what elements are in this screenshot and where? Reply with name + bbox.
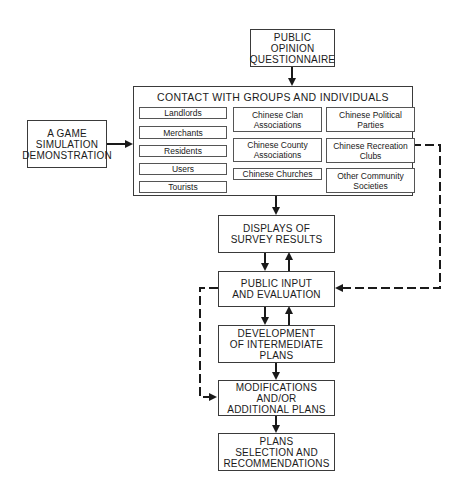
group-chinese-county-associations: Chinese County Associations <box>233 138 322 162</box>
group-label: Chinese Recreation Clubs <box>333 141 408 161</box>
plans-selection-label: PLANS SELECTION AND RECOMMENDATIONS <box>223 436 329 469</box>
development-box: DEVELOPMENT OF INTERMEDIATE PLANS <box>218 325 335 363</box>
group-landlords: Landlords <box>139 107 227 119</box>
questionnaire-box: PUBLIC OPINION QUESTIONNAIRE <box>250 29 335 67</box>
group-chinese-recreation-clubs: Chinese Recreation Clubs <box>326 138 415 163</box>
group-label: Chinese Clan Associations <box>252 110 303 130</box>
group-other-community-societies: Other Community Societies <box>326 168 415 193</box>
group-chinese-clan-associations: Chinese Clan Associations <box>233 107 322 132</box>
game-simulation-label: A GAME SIMULATION DEMONSTRATION <box>22 128 112 161</box>
group-label: Merchants <box>163 128 203 138</box>
group-users: Users <box>139 163 227 175</box>
questionnaire-label: PUBLIC OPINION QUESTIONNAIRE <box>250 32 335 65</box>
group-tourists: Tourists <box>139 181 227 193</box>
group-label: Chinese Churches <box>243 169 313 179</box>
displays-label: DISPLAYS OF SURVEY RESULTS <box>231 223 323 245</box>
group-label: Residents <box>164 146 202 156</box>
modifications-label: MODIFICATIONS AND/OR ADDITIONAL PLANS <box>227 382 325 415</box>
group-label: Landlords <box>164 108 201 118</box>
group-label: Other Community Societies <box>337 171 404 191</box>
group-merchants: Merchants <box>139 126 227 139</box>
public-input-box: PUBLIC INPUT AND EVALUATION <box>218 271 335 307</box>
public-input-label: PUBLIC INPUT AND EVALUATION <box>232 278 321 300</box>
group-residents: Residents <box>139 145 227 157</box>
displays-box: DISPLAYS OF SURVEY RESULTS <box>218 215 335 253</box>
group-chinese-political-parties: Chinese Political Parties <box>326 107 415 132</box>
group-label: Chinese County Associations <box>247 140 307 160</box>
dashed-input-to-modifications <box>200 288 218 397</box>
group-label: Users <box>172 164 194 174</box>
group-label: Chinese Political Parties <box>339 110 402 130</box>
group-chinese-churches: Chinese Churches <box>233 168 322 180</box>
game-simulation-box: A GAME SIMULATION DEMONSTRATION <box>27 120 107 168</box>
contact-title: CONTACT WITH GROUPS AND INDIVIDUALS <box>134 92 412 103</box>
modifications-box: MODIFICATIONS AND/OR ADDITIONAL PLANS <box>218 380 335 416</box>
development-label: DEVELOPMENT OF INTERMEDIATE PLANS <box>230 328 323 361</box>
group-label: Tourists <box>168 182 197 192</box>
plans-selection-box: PLANS SELECTION AND RECOMMENDATIONS <box>218 433 335 471</box>
